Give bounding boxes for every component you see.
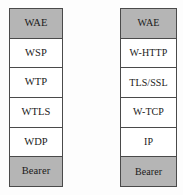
stack-layer-wae: WAE [10,9,62,39]
layer-label: WTP [25,77,47,88]
layer-label: WSP [25,47,47,58]
layer-label: W-HTTP [130,48,168,58]
stack-layer-wtp: WTP [10,68,62,98]
stack-layer-ip: IP [121,128,176,158]
stack-layer-bearer: Bearer [10,157,62,186]
layer-label: Bearer [22,166,51,177]
stack-layer-tls-ssl: TLS/SSL [121,68,176,98]
stack-layer-w-http: W-HTTP [121,39,176,69]
layer-label: WAE [24,18,47,29]
stack-layer-bearer: Bearer [121,157,176,186]
layer-label: IP [144,137,153,147]
layer-label: WAE [138,18,160,28]
layer-label: TLS/SSL [129,77,168,87]
diagram-canvas: WAE WSP WTP WTLS WDP Bearer WAE W-HTTP T… [0,0,183,195]
stack-layer-wae: WAE [121,9,176,39]
stack-layer-wdp: WDP [10,128,62,158]
layer-label: WTLS [22,107,51,118]
protocol-stack-wap: WAE WSP WTP WTLS WDP Bearer [9,8,63,187]
protocol-stack-internet: WAE W-HTTP TLS/SSL W-TCP IP Bearer [120,8,177,187]
stack-layer-w-tcp: W-TCP [121,98,176,128]
stack-layer-wsp: WSP [10,39,62,69]
layer-label: Bearer [135,166,162,176]
layer-label: WDP [24,136,48,147]
stack-layer-wtls: WTLS [10,98,62,128]
layer-label: W-TCP [133,107,164,117]
